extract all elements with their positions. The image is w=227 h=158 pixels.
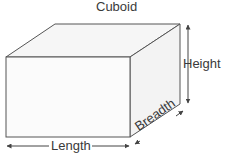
cuboid-drawing bbox=[0, 0, 227, 158]
diagram-title: Cuboid bbox=[96, 0, 137, 13]
cuboid-front-face bbox=[6, 57, 130, 137]
cuboid-diagram: Cuboid Height Length Breadth bbox=[0, 0, 227, 158]
breadth-arrow-lower bbox=[135, 141, 140, 144]
height-label: Height bbox=[183, 57, 221, 70]
length-label: Length bbox=[50, 139, 92, 152]
breadth-arrow-upper bbox=[176, 111, 183, 116]
